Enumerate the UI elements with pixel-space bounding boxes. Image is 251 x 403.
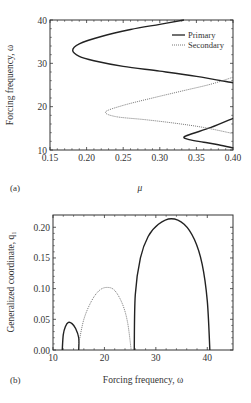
panel-b-ylabel: Generalized coordinate, q₁	[6, 231, 16, 332]
x-tick-label: 30	[151, 353, 161, 363]
y-tick-label: 0.05	[33, 315, 50, 325]
panel-a: 0.150.200.250.300.350.4010203040 Primary…	[5, 16, 242, 194]
panel-b-label: (b)	[10, 375, 21, 385]
y-tick-label: 30	[38, 59, 48, 69]
x-tick-label: 0.30	[151, 153, 168, 163]
x-tick-label: 0.25	[115, 153, 132, 163]
y-tick-label: 0.15	[33, 253, 50, 263]
legend-primary-label: Primary	[188, 30, 216, 40]
y-tick-label: 0.00	[33, 346, 50, 356]
x-tick-label: 40	[203, 353, 213, 363]
legend: Primary Secondary	[172, 30, 225, 50]
y-tick-label: 40	[38, 16, 48, 26]
secondary-curve	[105, 77, 233, 133]
panel-a-xlabel: μ	[137, 183, 143, 193]
panel-b-frame	[53, 215, 233, 350]
y-tick-label: 20	[38, 102, 48, 112]
x-tick-label: 0.35	[188, 153, 205, 163]
x-tick-label: 0.20	[78, 153, 95, 163]
primary-curve	[134, 219, 210, 350]
x-tick-label: 20	[100, 353, 110, 363]
y-tick-label: 0.20	[33, 223, 50, 233]
figure: 0.150.200.250.300.350.4010203040 Primary…	[0, 0, 251, 403]
y-tick-label: 0.10	[33, 284, 50, 294]
y-tick-label: 10	[38, 146, 48, 156]
panel-a-label: (a)	[10, 183, 20, 193]
x-tick-label: 0.40	[225, 153, 242, 163]
panel-b: 102030400.000.050.100.150.20 Generalized…	[6, 215, 233, 385]
legend-secondary-label: Secondary	[188, 40, 225, 50]
panel-a-ylabel: Forcing frequency, ω	[5, 45, 15, 125]
panel-b-xlabel: Forcing frequency, ω	[103, 375, 183, 385]
panel-b-curves	[62, 219, 210, 350]
secondary-curve	[79, 287, 131, 350]
primary-curve	[62, 322, 79, 350]
primary-curve	[184, 118, 233, 147]
